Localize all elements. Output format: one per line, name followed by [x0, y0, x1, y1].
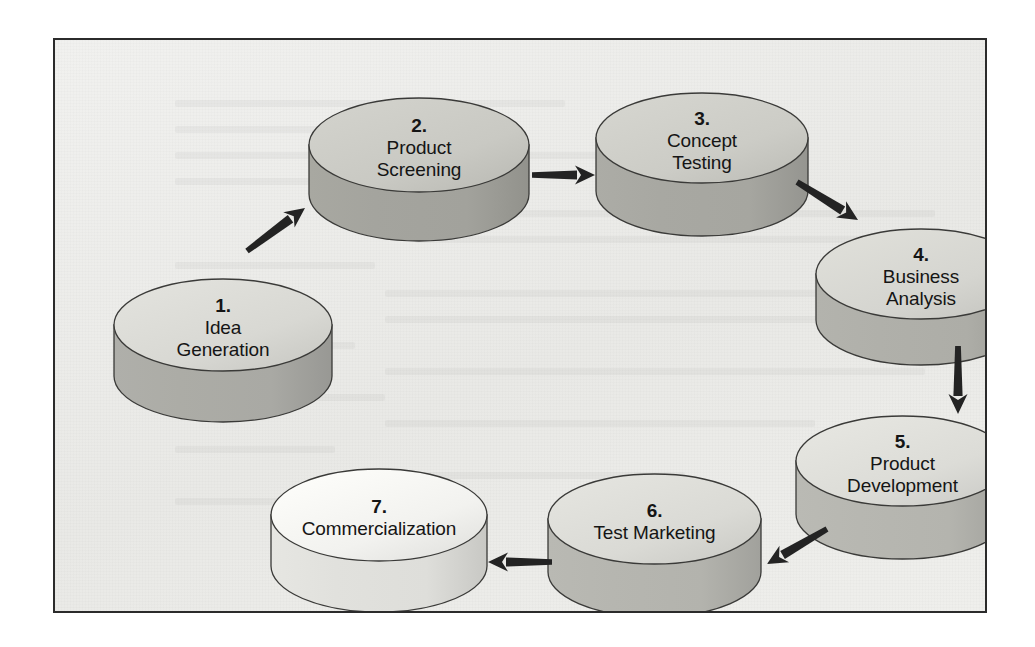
cylinder-graphic [270, 468, 488, 613]
stage-cylinder-7[interactable]: 7.Commercialization [270, 468, 488, 613]
cylinder-graphic [308, 97, 530, 242]
arrow-glyph-down-right [771, 156, 884, 246]
flow-arrow-1-to-2 [221, 182, 331, 277]
cylinder-shape [547, 473, 762, 613]
diagram-canvas: 1.IdeaGeneration2.ProductScreening3.Conc… [0, 0, 1035, 647]
ghost-text-line [385, 420, 815, 427]
flow-arrow-3-to-4 [771, 156, 884, 246]
cylinder-shape [308, 97, 530, 242]
arrow-glyph-up-right [221, 182, 331, 277]
flow-arrow-6-to-7 [462, 536, 578, 588]
stage-cylinder-2[interactable]: 2.ProductScreening [308, 97, 530, 242]
cylinder-graphic [547, 473, 762, 613]
diagram-frame: 1.IdeaGeneration2.ProductScreening3.Conc… [53, 38, 987, 613]
cylinder-graphic [113, 278, 333, 423]
arrow-glyph-left [462, 536, 578, 588]
cylinder-shape [113, 278, 333, 423]
arrow-glyph-down-left [741, 503, 853, 590]
stage-cylinder-1[interactable]: 1.IdeaGeneration [113, 278, 333, 423]
flow-arrow-5-to-6 [741, 503, 853, 590]
flow-arrow-2-to-3 [506, 149, 621, 201]
flow-arrow-4-to-5 [932, 320, 984, 440]
ghost-text-line [385, 368, 925, 375]
arrow-glyph-right [506, 149, 621, 201]
ghost-text-line [175, 446, 335, 453]
stage-cylinder-6[interactable]: 6.Test Marketing [547, 473, 762, 613]
cylinder-shape [270, 468, 488, 613]
arrow-glyph-down [932, 320, 984, 440]
